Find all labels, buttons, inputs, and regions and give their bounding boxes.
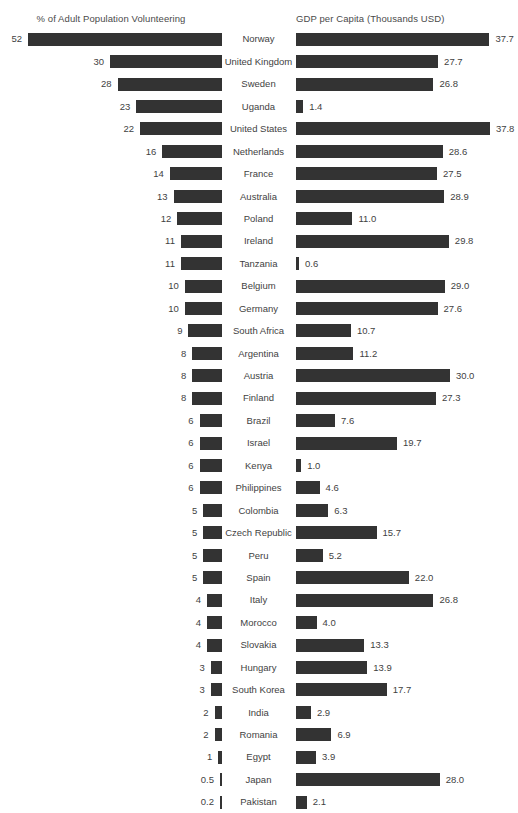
right-bar (296, 122, 490, 135)
right-value-label: 37.7 (495, 34, 514, 44)
left-bar (207, 616, 222, 629)
chart-row: 8Finland27.3 (0, 387, 518, 409)
category-label: Hungary (224, 656, 293, 678)
category-label: France (224, 163, 293, 185)
right-bar (296, 594, 433, 607)
right-bar (296, 369, 450, 382)
left-value-label: 9 (177, 326, 182, 336)
left-series-cell: 30 (0, 50, 222, 72)
left-series-cell: 11 (0, 252, 222, 274)
chart-row: 0.2Pakistan2.1 (0, 791, 518, 813)
right-bar (296, 347, 353, 360)
left-series-cell: 4 (0, 589, 222, 611)
category-label: Spain (224, 567, 293, 589)
left-bar (170, 167, 222, 180)
right-series-cell: 15.7 (296, 522, 518, 544)
chart-row: 10Belgium29.0 (0, 275, 518, 297)
category-label: Peru (224, 544, 293, 566)
right-series-cell: 28.9 (296, 185, 518, 207)
right-bar (296, 481, 320, 494)
right-value-label: 29.0 (451, 281, 470, 291)
chart-row: 5Czech Republic15.7 (0, 522, 518, 544)
left-bar (203, 526, 222, 539)
category-label: Uganda (224, 95, 293, 117)
left-series-cell: 14 (0, 163, 222, 185)
category-label: Romania (224, 724, 293, 746)
left-series-cell: 1 (0, 746, 222, 768)
right-series-cell: 6.3 (296, 499, 518, 521)
right-value-label: 1.4 (309, 102, 322, 112)
right-series-cell: 28.0 (296, 768, 518, 790)
left-value-label: 8 (181, 349, 186, 359)
chart-row: 4Morocco4.0 (0, 611, 518, 633)
left-value-label: 2 (203, 708, 208, 718)
right-value-label: 11.2 (359, 349, 377, 359)
right-series-cell: 7.6 (296, 409, 518, 431)
left-bar (192, 347, 222, 360)
right-value-label: 27.7 (444, 57, 463, 67)
left-value-label: 5 (192, 528, 197, 538)
left-value-label: 5 (192, 551, 197, 561)
left-series-cell: 12 (0, 208, 222, 230)
left-bar (200, 481, 222, 494)
category-label: United Kingdom (224, 50, 293, 72)
left-value-label: 4 (196, 618, 201, 628)
right-axis-title: GDP per Capita (Thousands USD) (296, 13, 444, 24)
category-label: Italy (224, 589, 293, 611)
left-series-cell: 5 (0, 544, 222, 566)
right-value-label: 15.7 (383, 528, 402, 538)
category-label: Ireland (224, 230, 293, 252)
right-value-label: 2.1 (313, 797, 326, 807)
right-series-cell: 0.6 (296, 252, 518, 274)
left-bar (203, 504, 222, 517)
right-value-label: 27.3 (442, 393, 461, 403)
right-series-cell: 22.0 (296, 567, 518, 589)
right-bar (296, 190, 444, 203)
right-bar (296, 212, 352, 225)
left-bar (181, 257, 222, 270)
right-bar (296, 751, 316, 764)
right-bar (296, 728, 331, 741)
chart-row: 12Poland11.0 (0, 208, 518, 230)
left-bar (192, 392, 222, 405)
right-value-label: 2.9 (317, 708, 330, 718)
right-bar (296, 616, 317, 629)
right-series-cell: 37.8 (296, 118, 518, 140)
right-value-label: 37.8 (496, 124, 515, 134)
left-value-label: 6 (188, 438, 193, 448)
right-series-cell: 11.2 (296, 342, 518, 364)
chart-row: 5Colombia6.3 (0, 499, 518, 521)
category-label: Colombia (224, 499, 293, 521)
right-value-label: 28.0 (446, 775, 465, 785)
left-value-label: 22 (123, 124, 134, 134)
right-value-label: 11.0 (358, 214, 376, 224)
right-series-cell: 27.7 (296, 50, 518, 72)
left-value-label: 12 (161, 214, 172, 224)
left-value-label: 11 (165, 259, 175, 269)
category-label: Czech Republic (224, 522, 293, 544)
chart-rows: 52Norway37.730United Kingdom27.728Sweden… (0, 28, 518, 813)
chart-row: 8Austria30.0 (0, 365, 518, 387)
left-value-label: 6 (188, 461, 193, 471)
left-value-label: 2 (203, 730, 208, 740)
right-series-cell: 27.3 (296, 387, 518, 409)
left-value-label: 0.2 (201, 797, 214, 807)
right-value-label: 6.3 (334, 506, 347, 516)
chart-row: 28Sweden26.8 (0, 73, 518, 95)
right-bar (296, 280, 445, 293)
left-series-cell: 4 (0, 634, 222, 656)
left-value-label: 11 (165, 236, 175, 246)
chart-row: 2India2.9 (0, 701, 518, 723)
right-value-label: 29.8 (455, 236, 474, 246)
right-bar (296, 100, 303, 113)
category-label: Netherlands (224, 140, 293, 162)
right-bar (296, 683, 387, 696)
right-value-label: 7.6 (341, 416, 354, 426)
left-series-cell: 0.5 (0, 768, 222, 790)
right-bar (296, 78, 433, 91)
left-series-cell: 8 (0, 342, 222, 364)
category-label: Argentina (224, 342, 293, 364)
left-value-label: 5 (192, 506, 197, 516)
left-series-cell: 10 (0, 297, 222, 319)
right-series-cell: 2.9 (296, 701, 518, 723)
